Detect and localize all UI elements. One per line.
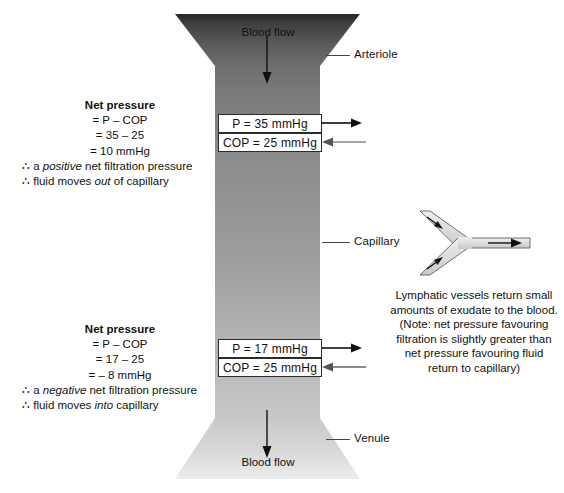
hydrostatic-out-arrow-top xyxy=(322,119,362,128)
label-capillary: Capillary xyxy=(354,235,400,247)
lymph-note-line-2: amounts of exudate to the blood. xyxy=(386,303,562,318)
lymph-note-line-5: net pressure favouring fluid xyxy=(386,346,562,361)
calc-line1-venular: = P – COP xyxy=(22,337,218,352)
venular-flux-arrows xyxy=(320,337,370,381)
calc-line2-venular: = 17 – 25 xyxy=(22,352,218,367)
calc-line1-arteriolar: = P – COP xyxy=(22,113,218,128)
label-venule: Venule xyxy=(354,432,390,444)
lymph-note-line-3: (Note: net pressure favouring xyxy=(386,317,562,332)
pressure-box-arteriolar-oncotic: COP = 25 mmHg xyxy=(218,133,322,152)
capillary-leader-line xyxy=(322,242,350,243)
calc-line3-venular: = – 8 mmHg xyxy=(22,368,218,383)
lymph-note-line-4: filtration is slightly greater than xyxy=(386,332,562,347)
calc-line3-arteriolar: = 10 mmHg xyxy=(22,144,218,159)
calc-title-arteriolar: Net pressure xyxy=(22,98,218,113)
label-arteriole: Arteriole xyxy=(354,48,398,60)
diagram-canvas: Blood flow Blood flow Arteriole Capillar… xyxy=(0,0,564,493)
hydrostatic-out-arrow-bottom xyxy=(322,344,362,353)
calc-conclusion1-arteriolar: ∴ a positive net filtration pressure xyxy=(22,159,218,174)
calc-conclusion2-venular: ∴ fluid moves into capillary xyxy=(22,398,218,413)
arteriole-leader-line xyxy=(326,55,350,56)
blood-flow-label-top: Blood flow xyxy=(228,26,308,38)
lymph-note-line-1: Lymphatic vessels return small xyxy=(386,288,562,303)
arteriolar-flux-arrows xyxy=(320,112,370,156)
pressure-box-venular-oncotic: COP = 25 mmHg xyxy=(218,358,322,377)
lymph-note-line-6: return to capillary) xyxy=(386,361,562,376)
lymphatic-vessel-icon xyxy=(408,207,536,279)
venule-leader-line xyxy=(326,439,350,440)
pressure-box-arteriolar-hydrostatic: P = 35 mmHg xyxy=(218,114,322,133)
blood-flow-label-bottom: Blood flow xyxy=(228,456,308,468)
calc-conclusion1-venular: ∴ a negative net filtration pressure xyxy=(22,383,218,398)
calc-line2-arteriolar: = 35 – 25 xyxy=(22,128,218,143)
calc-title-venular: Net pressure xyxy=(22,322,218,337)
calculation-arteriolar: Net pressure = P – COP = 35 – 25 = 10 mm… xyxy=(22,98,218,189)
calc-conclusion2-arteriolar: ∴ fluid moves out of capillary xyxy=(22,174,218,189)
pressure-box-venular-hydrostatic: P = 17 mmHg xyxy=(218,339,322,358)
lymphatic-note: Lymphatic vessels return small amounts o… xyxy=(386,288,562,376)
calculation-venular: Net pressure = P – COP = 17 – 25 = – 8 m… xyxy=(22,322,218,413)
oncotic-in-arrow-bottom xyxy=(322,363,366,372)
oncotic-in-arrow-top xyxy=(322,138,366,147)
